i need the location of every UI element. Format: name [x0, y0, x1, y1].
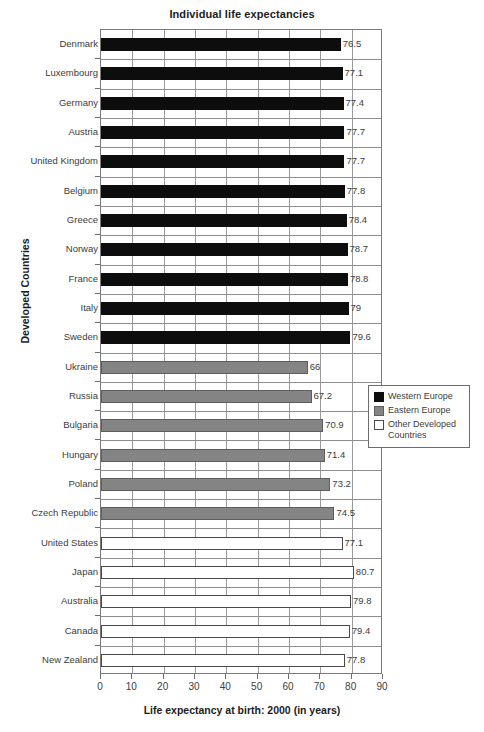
y-gridline	[101, 177, 381, 178]
y-axis-category-label: Belgium	[0, 184, 98, 197]
x-axis-tick	[351, 674, 352, 679]
y-axis-tick	[95, 498, 100, 499]
bar-value-label: 79.6	[350, 330, 371, 343]
x-axis-tick	[288, 674, 289, 679]
bar	[101, 625, 350, 638]
y-axis-tick	[95, 557, 100, 558]
y-axis-title: Developed Countries	[19, 201, 31, 381]
y-axis-category-label: Czech Republic	[0, 506, 98, 519]
y-axis-category-label: Japan	[0, 565, 98, 578]
y-axis-category-label: Luxembourg	[0, 66, 98, 79]
y-gridline	[101, 294, 381, 295]
y-axis-category-label: United Kingdom	[0, 154, 98, 167]
legend-swatch-eastern-europe	[374, 406, 384, 416]
y-gridline	[101, 499, 381, 500]
y-axis-category-label: Canada	[0, 624, 98, 637]
x-axis-tick-label: 90	[362, 681, 402, 692]
y-axis-category-label: Poland	[0, 477, 98, 490]
y-axis-tick	[95, 381, 100, 382]
y-gridline	[101, 235, 381, 236]
x-axis-tick	[163, 674, 164, 679]
y-gridline	[101, 206, 381, 207]
legend-item-other-developed: Other Developed Countries	[374, 419, 465, 441]
bar	[101, 273, 348, 286]
x-axis-tick	[100, 674, 101, 679]
y-gridline	[101, 587, 381, 588]
y-axis-category-label: United States	[0, 536, 98, 549]
bar-chart: Individual life expectancies Developed C…	[0, 0, 484, 732]
x-axis-tick	[131, 674, 132, 679]
bar	[101, 449, 325, 462]
y-gridline	[101, 411, 381, 412]
bar-value-label: 71.4	[325, 448, 346, 461]
y-gridline	[101, 616, 381, 617]
bar-value-label: 79.4	[350, 624, 371, 637]
bar	[101, 361, 308, 374]
bar-value-label: 74.5	[334, 506, 355, 519]
x-axis-tick	[257, 674, 258, 679]
y-gridline	[101, 470, 381, 471]
y-axis-category-label: Italy	[0, 301, 98, 314]
bar	[101, 331, 350, 344]
bar-value-label: 77.8	[345, 184, 366, 197]
bar-value-label: 67.2	[312, 389, 333, 402]
y-gridline	[101, 147, 381, 148]
y-gridline	[101, 528, 381, 529]
y-gridline	[101, 323, 381, 324]
bar	[101, 214, 347, 227]
y-axis-category-label: Norway	[0, 242, 98, 255]
y-gridline	[101, 353, 381, 354]
bar	[101, 507, 334, 520]
legend-item-western-europe: Western Europe	[374, 391, 465, 402]
bar-value-label: 77.8	[345, 653, 366, 666]
bar-value-label: 77.7	[344, 125, 365, 138]
bar	[101, 302, 349, 315]
y-axis-tick	[95, 615, 100, 616]
y-gridline	[101, 89, 381, 90]
y-axis-tick	[95, 439, 100, 440]
y-gridline	[101, 558, 381, 559]
y-axis-category-label: Bulgaria	[0, 418, 98, 431]
legend-label-other-developed: Other Developed Countries	[388, 419, 465, 441]
bar	[101, 419, 323, 432]
bar	[101, 126, 344, 139]
y-axis-tick	[95, 645, 100, 646]
x-axis-title: Life expectancy at birth: 2000 (in years…	[0, 704, 484, 716]
bar	[101, 67, 343, 80]
y-axis-tick	[95, 234, 100, 235]
bar-value-label: 66	[308, 360, 321, 373]
y-gridline	[101, 646, 381, 647]
y-axis-tick	[95, 146, 100, 147]
y-axis-category-label: Greece	[0, 213, 98, 226]
bar-value-label: 78.7	[348, 242, 369, 255]
y-gridline	[101, 265, 381, 266]
y-axis-category-label: Germany	[0, 96, 98, 109]
y-axis-tick	[95, 469, 100, 470]
bar	[101, 654, 345, 667]
bar-value-label: 76.5	[341, 37, 362, 50]
y-axis-tick	[95, 205, 100, 206]
legend-label-eastern-europe: Eastern Europe	[388, 405, 451, 416]
plot-area	[100, 29, 382, 674]
y-axis-category-label: Austria	[0, 125, 98, 138]
y-axis-category-label: Denmark	[0, 37, 98, 50]
legend-swatch-western-europe	[374, 392, 384, 402]
bar-value-label: 77.7	[344, 154, 365, 167]
y-axis-tick	[95, 117, 100, 118]
legend-label-western-europe: Western Europe	[388, 391, 453, 402]
y-axis-category-label: Australia	[0, 594, 98, 607]
x-axis-tick	[194, 674, 195, 679]
bar	[101, 595, 351, 608]
bar	[101, 97, 344, 110]
bar	[101, 185, 345, 198]
y-axis-tick	[95, 58, 100, 59]
chart-legend: Western Europe Eastern Europe Other Deve…	[368, 385, 470, 448]
bar-value-label: 77.1	[343, 536, 364, 549]
bar-value-label: 79	[349, 301, 362, 314]
x-axis-tick	[319, 674, 320, 679]
y-axis-category-label: Hungary	[0, 448, 98, 461]
bar-value-label: 70.9	[323, 418, 344, 431]
y-axis-category-label: Sweden	[0, 330, 98, 343]
bar-value-label: 77.4	[344, 96, 365, 109]
bar	[101, 478, 330, 491]
